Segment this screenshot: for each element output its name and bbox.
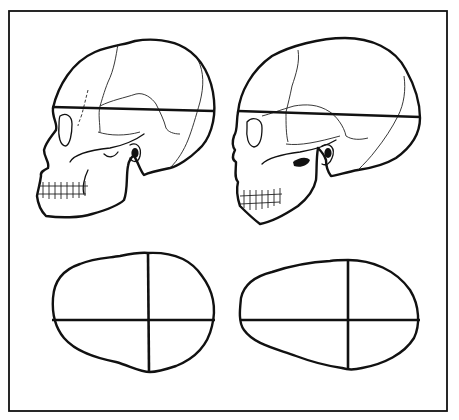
right-length-line bbox=[238, 111, 420, 117]
figure-svg bbox=[0, 0, 459, 420]
figure-frame bbox=[9, 11, 447, 411]
left-length-axis bbox=[148, 253, 149, 372]
left-length-line bbox=[52, 107, 214, 111]
left-skull-lateral bbox=[37, 40, 214, 218]
right-teeth bbox=[240, 188, 282, 210]
left-teeth bbox=[38, 181, 88, 199]
left-superior-outline bbox=[52, 253, 215, 372]
figure-canvas: Comparison of skull shapes: lateral view… bbox=[0, 0, 459, 420]
right-skull-lateral bbox=[233, 38, 420, 224]
right-superior-outline bbox=[240, 260, 420, 370]
